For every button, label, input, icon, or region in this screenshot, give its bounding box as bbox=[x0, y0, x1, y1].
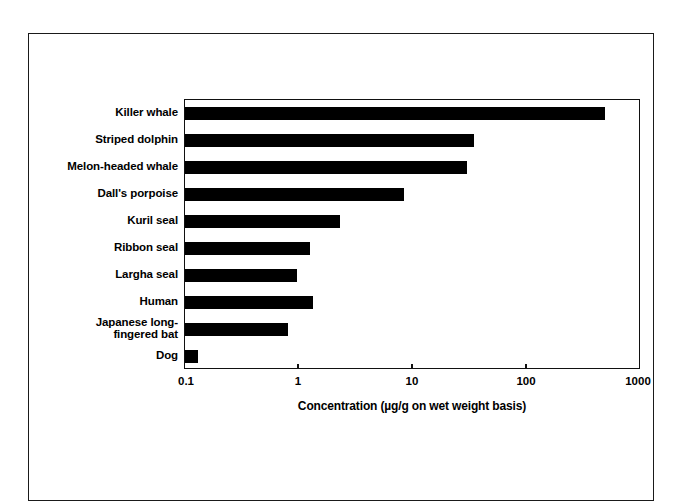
x-tick-label: 0.1 bbox=[178, 375, 194, 387]
category-label: Dall's porpoise bbox=[98, 187, 178, 200]
category-label: Ribbon seal bbox=[114, 241, 178, 254]
figure-outer-border: Killer whaleStriped dolphinMelon-headed … bbox=[28, 33, 654, 501]
category-label: Kuril seal bbox=[127, 214, 178, 227]
bar bbox=[185, 296, 313, 309]
category-label: Japanese long- fingered bat bbox=[96, 316, 178, 341]
category-label: Dog bbox=[156, 349, 178, 362]
x-tick-mark bbox=[525, 364, 527, 369]
bar-chart: Killer whaleStriped dolphinMelon-headed … bbox=[29, 34, 655, 501]
x-axis-ticks: 0.11101001000 bbox=[184, 369, 640, 399]
bar bbox=[185, 242, 310, 255]
plot-area bbox=[184, 99, 640, 369]
bar bbox=[185, 269, 297, 282]
bar bbox=[185, 134, 474, 147]
bar bbox=[185, 107, 605, 120]
category-label: Striped dolphin bbox=[95, 133, 178, 146]
x-tick-label: 1000 bbox=[625, 375, 651, 387]
bar bbox=[185, 323, 288, 336]
bar bbox=[185, 161, 467, 174]
category-label: Human bbox=[140, 295, 178, 308]
x-tick-label: 100 bbox=[516, 375, 535, 387]
x-tick-label: 10 bbox=[406, 375, 419, 387]
x-axis-title: Concentration (µg/g on wet weight basis) bbox=[184, 399, 640, 413]
category-label: Melon-headed whale bbox=[67, 160, 178, 173]
bar bbox=[185, 215, 340, 228]
category-axis-labels: Killer whaleStriped dolphinMelon-headed … bbox=[29, 99, 181, 369]
bars-layer bbox=[185, 100, 639, 368]
x-tick-label: 1 bbox=[295, 375, 301, 387]
category-label: Killer whale bbox=[115, 106, 178, 119]
category-label: Largha seal bbox=[115, 268, 178, 281]
x-tick-mark bbox=[297, 364, 299, 369]
bar bbox=[185, 350, 198, 363]
x-tick-mark bbox=[411, 364, 413, 369]
bar bbox=[185, 188, 404, 201]
